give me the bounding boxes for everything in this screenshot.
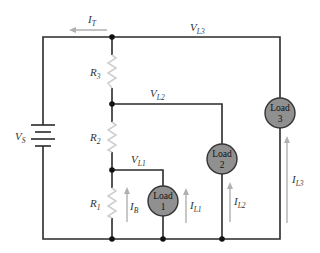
label-vs: VS (15, 130, 26, 145)
svg-text:1: 1 (161, 202, 166, 212)
svg-text:Load: Load (212, 149, 232, 159)
top-wire (43, 37, 280, 125)
label-r1: R1 (89, 197, 100, 212)
svg-text:Load: Load (270, 103, 290, 113)
current-arrow-it-icon (69, 27, 107, 33)
bottom-wire (43, 128, 280, 239)
vl2-wire (112, 104, 222, 144)
current-arrow-il3-icon (284, 136, 290, 223)
label-il1: IL1 (189, 199, 202, 214)
label-it: IT (87, 13, 97, 28)
load-2: Load 2 (207, 144, 237, 174)
svg-text:2: 2 (220, 160, 225, 170)
current-arrow-il2-icon (227, 182, 233, 222)
label-vl2: VL2 (150, 87, 165, 102)
resistor-r1-icon (108, 188, 116, 218)
label-ib: IB (129, 200, 139, 215)
circuit-diagram: Load 1 Load 2 Load 3 IT VL3 VL2 VL1 R3 R… (0, 0, 320, 253)
svg-text:3: 3 (278, 114, 283, 124)
label-vl1: VL1 (131, 153, 146, 168)
label-r3: R3 (89, 66, 101, 81)
battery-icon (31, 125, 55, 146)
resistor-r3-icon (108, 55, 116, 88)
label-r2: R2 (89, 131, 101, 146)
vl1-wire (112, 170, 163, 186)
current-arrow-il1-icon (183, 188, 189, 223)
label-vl3: VL3 (190, 21, 205, 36)
svg-text:Load: Load (153, 191, 173, 201)
load-3: Load 3 (265, 98, 295, 128)
load-1: Load 1 (148, 186, 178, 216)
label-il3: IL3 (291, 173, 304, 188)
resistor-r2-icon (108, 122, 116, 152)
label-il2: IL2 (233, 195, 246, 210)
